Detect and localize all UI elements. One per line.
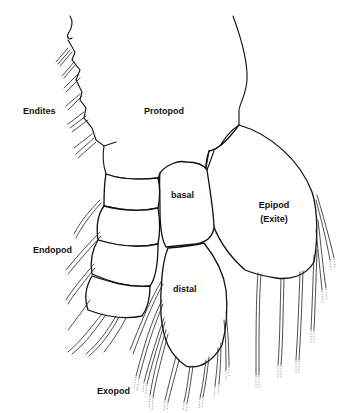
label-endites: Endites (23, 106, 56, 117)
label-epipod: Epipod (244, 200, 304, 211)
endite-setae (56, 48, 96, 158)
label-basal: basal (171, 190, 194, 201)
label-exite: (Exite) (244, 214, 304, 225)
label-protopod: Protopod (144, 106, 184, 117)
label-endopod: Endopod (33, 245, 72, 256)
label-distal: distal (173, 284, 197, 295)
distal-shape (161, 243, 227, 367)
endopod-shape (86, 174, 160, 318)
label-exopod: Exopod (97, 386, 130, 397)
